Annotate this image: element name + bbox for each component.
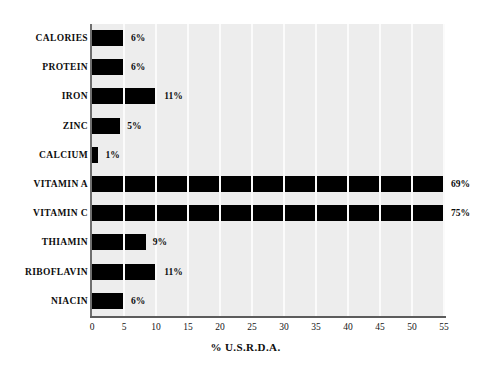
bar-row: VITAMIN A69% xyxy=(92,170,444,199)
bar-niacin xyxy=(92,293,124,309)
bar-calories xyxy=(92,30,124,46)
bar-row: THIAMIN9% xyxy=(92,228,444,257)
x-tick-label-0: 0 xyxy=(80,322,104,332)
bar-vitamin-c xyxy=(92,205,444,221)
category-label: PROTEIN xyxy=(4,59,88,75)
category-label: THIAMIN xyxy=(4,234,88,250)
bar-chart: CALORIES6%PROTEIN6%IRON11%ZINC5%CALCIUM1… xyxy=(0,0,491,366)
category-label: RIBOFLAVIN xyxy=(4,264,88,280)
bar-row: RIBOFLAVIN11% xyxy=(92,258,444,287)
bar-row: CALORIES6% xyxy=(92,24,444,53)
gridline-40 xyxy=(347,24,349,316)
value-label: 11% xyxy=(164,88,182,104)
gridline-30 xyxy=(283,24,285,316)
value-label: 11% xyxy=(164,264,182,280)
value-label: 6% xyxy=(131,30,145,46)
gridline-45 xyxy=(379,24,381,316)
bar-thiamin xyxy=(92,234,146,250)
x-tick-label-5: 5 xyxy=(112,322,136,332)
gridline-5 xyxy=(123,24,125,316)
x-tick-label-15: 15 xyxy=(176,322,200,332)
value-label: 9% xyxy=(153,234,167,250)
category-label: VITAMIN A xyxy=(4,176,88,192)
gridline-10 xyxy=(155,24,157,316)
x-tick-label-50: 50 xyxy=(400,322,424,332)
x-axis-title: % U.S.R.D.A. xyxy=(0,341,491,353)
gridline-35 xyxy=(315,24,317,316)
x-tick-label-30: 30 xyxy=(272,322,296,332)
x-tick-label-10: 10 xyxy=(144,322,168,332)
bar-zinc xyxy=(92,118,120,134)
bar-row: IRON11% xyxy=(92,82,444,111)
gridline-25 xyxy=(251,24,253,316)
y-axis-line xyxy=(90,24,92,318)
x-tick-label-55: 55 xyxy=(432,322,456,332)
bar-calcium xyxy=(92,147,98,163)
value-label: 5% xyxy=(127,118,141,134)
category-label: CALORIES xyxy=(4,30,88,46)
value-label: 75% xyxy=(451,205,470,221)
bar-row: CALCIUM1% xyxy=(92,141,444,170)
value-label: 6% xyxy=(131,59,145,75)
gridline-50 xyxy=(411,24,413,316)
bar-row: VITAMIN C75% xyxy=(92,199,444,228)
value-label: 1% xyxy=(105,147,119,163)
x-tick-label-25: 25 xyxy=(240,322,264,332)
gridline-55 xyxy=(443,24,445,316)
gridline-20 xyxy=(219,24,221,316)
category-label: VITAMIN C xyxy=(4,205,88,221)
gridline-15 xyxy=(187,24,189,316)
x-axis-line xyxy=(90,316,446,318)
x-tick-label-45: 45 xyxy=(368,322,392,332)
bar-row: PROTEIN6% xyxy=(92,53,444,82)
category-label: ZINC xyxy=(4,118,88,134)
value-label: 6% xyxy=(131,293,145,309)
category-label: NIACIN xyxy=(4,293,88,309)
x-tick-label-20: 20 xyxy=(208,322,232,332)
value-label: 69% xyxy=(451,176,470,192)
x-tick-label-35: 35 xyxy=(304,322,328,332)
bar-row: NIACIN6% xyxy=(92,287,444,316)
bar-vitamin-a xyxy=(92,176,444,192)
category-label: IRON xyxy=(4,88,88,104)
category-label: CALCIUM xyxy=(4,147,88,163)
x-tick-label-40: 40 xyxy=(336,322,360,332)
bar-protein xyxy=(92,59,124,75)
plot-area: CALORIES6%PROTEIN6%IRON11%ZINC5%CALCIUM1… xyxy=(92,24,444,316)
bar-row: ZINC5% xyxy=(92,112,444,141)
